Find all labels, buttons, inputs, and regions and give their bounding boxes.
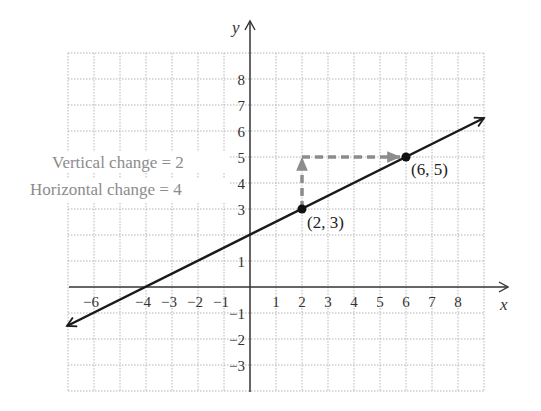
y-axis-label: y xyxy=(230,18,240,37)
y-tick-label: 8 xyxy=(238,72,246,88)
x-tick-label: 5 xyxy=(376,294,384,310)
x-tick-label: −4 xyxy=(135,294,151,310)
y-tick-label: 5 xyxy=(238,150,246,166)
x-tick-label: −6 xyxy=(83,294,99,310)
x-tick-label: 2 xyxy=(298,294,306,310)
vertical-change-label: Vertical change = 2 xyxy=(52,153,184,172)
x-axis-label: x xyxy=(499,295,508,314)
y-tick-label: 1 xyxy=(238,254,246,270)
y-tick-label: 4 xyxy=(238,176,246,192)
x-tick-label: 3 xyxy=(324,294,332,310)
point-6-5-label: (6, 5) xyxy=(411,160,448,179)
point-6-5 xyxy=(402,153,411,162)
x-tick-label: 4 xyxy=(350,294,358,310)
point-2-3-label: (2, 3) xyxy=(307,213,344,232)
x-tick-label: −3 xyxy=(161,294,177,310)
slope-chart: x y −6−4−3−2−112345678 8765431−1−2−3 (2,… xyxy=(0,0,541,411)
x-tick-label: 7 xyxy=(428,294,436,310)
x-tick-label: 1 xyxy=(272,294,280,310)
x-tick-label: 8 xyxy=(454,294,462,310)
point-2-3 xyxy=(298,205,307,214)
y-tick-label: −2 xyxy=(229,332,245,348)
x-tick-labels: −6−4−3−2−112345678 xyxy=(83,294,462,310)
y-tick-label: −1 xyxy=(229,306,245,322)
y-tick-label: 6 xyxy=(238,124,246,140)
y-tick-label: −3 xyxy=(229,358,245,374)
x-tick-label: −1 xyxy=(213,294,229,310)
y-tick-label: 7 xyxy=(238,98,246,114)
y-tick-labels: 8765431−1−2−3 xyxy=(229,72,245,374)
x-tick-label: −2 xyxy=(187,294,203,310)
horizontal-change-label: Horizontal change = 4 xyxy=(30,180,182,199)
x-tick-label: 6 xyxy=(402,294,410,310)
y-tick-label: 3 xyxy=(238,202,246,218)
